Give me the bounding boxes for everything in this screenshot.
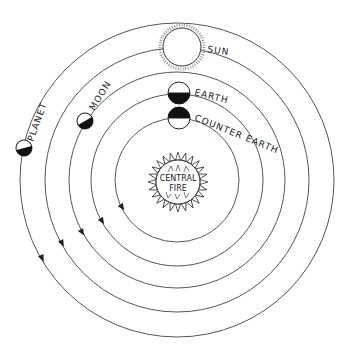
sun-label: SUN [207, 44, 230, 57]
arrow-icon [78, 228, 87, 237]
central-fire-label-2: FIRE [169, 184, 187, 193]
arrow-icon [98, 217, 107, 226]
planet-label: PLANET [25, 101, 48, 143]
counter-earth-body [168, 107, 190, 129]
central-fire: CENTRAL FIRE [148, 152, 208, 212]
earth-label: EARTH [194, 87, 230, 105]
orbit-arrows [38, 203, 127, 263]
arrow-icon [118, 203, 127, 212]
sun-body [160, 25, 204, 69]
counter-earth-label: COUNTER EARTH [193, 113, 280, 156]
cosmos-diagram: CENTRAL FIRE COUNTER EARTH EARTH SUN MOO… [0, 0, 347, 348]
central-fire-label: CENTRAL [160, 174, 197, 183]
earth-body [168, 82, 190, 104]
